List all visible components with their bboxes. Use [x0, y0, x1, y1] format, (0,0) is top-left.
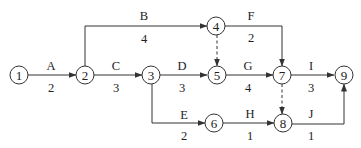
label-F-name: F: [248, 9, 255, 23]
label-C-name: C: [112, 59, 120, 73]
label-G-duration: 4: [245, 81, 252, 95]
label-H-name: H: [245, 107, 254, 121]
node-9: 9: [335, 66, 353, 84]
network-diagram: A 2 B 4 C 3 D 3 E 2 F 2 G 4 H 1 I 3 J 1 …: [0, 0, 361, 148]
label-J-name: J: [309, 107, 314, 121]
svg-text:1: 1: [16, 68, 23, 83]
node-5: 5: [208, 66, 226, 84]
svg-text:2: 2: [82, 68, 89, 83]
label-E-duration: 2: [181, 129, 187, 143]
svg-text:3: 3: [148, 68, 155, 83]
label-I-duration: 3: [308, 81, 314, 95]
node-3: 3: [142, 66, 160, 84]
svg-text:5: 5: [214, 68, 221, 83]
label-D-duration: 3: [179, 81, 185, 95]
label-A-name: A: [46, 59, 55, 73]
node-4: 4: [207, 17, 225, 35]
svg-text:7: 7: [279, 68, 286, 83]
edge-J: [292, 84, 344, 124]
svg-text:6: 6: [211, 116, 218, 131]
node-1: 1: [10, 66, 28, 84]
node-8: 8: [274, 114, 292, 132]
node-7: 7: [273, 66, 291, 84]
node-2: 2: [76, 66, 94, 84]
label-D-name: D: [177, 59, 186, 73]
node-6: 6: [205, 114, 223, 132]
label-E-name: E: [180, 108, 188, 122]
label-C-duration: 3: [113, 81, 119, 95]
svg-text:4: 4: [213, 19, 220, 34]
label-B-name: B: [140, 9, 148, 23]
label-A-duration: 2: [48, 81, 54, 95]
label-B-duration: 4: [141, 32, 148, 46]
label-F-duration: 2: [248, 31, 254, 45]
label-G-name: G: [243, 59, 252, 73]
svg-text:8: 8: [280, 116, 287, 131]
svg-text:9: 9: [341, 68, 348, 83]
label-I-name: I: [309, 59, 313, 73]
label-H-duration: 1: [247, 129, 253, 143]
label-J-duration: 1: [308, 129, 314, 143]
